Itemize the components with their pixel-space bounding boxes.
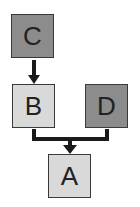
node-a-label: A: [61, 161, 78, 192]
edge-join-a-arrowhead: [63, 145, 77, 154]
node-d-label: D: [97, 91, 116, 122]
node-b-label: B: [25, 91, 42, 122]
node-c: C: [11, 14, 54, 58]
node-d: D: [85, 84, 128, 128]
edge-c-b-arrowhead: [28, 75, 40, 84]
edge-c-b-line: [32, 60, 36, 76]
node-c-label: C: [23, 21, 42, 52]
node-a: A: [48, 154, 91, 198]
node-b: B: [12, 84, 55, 128]
